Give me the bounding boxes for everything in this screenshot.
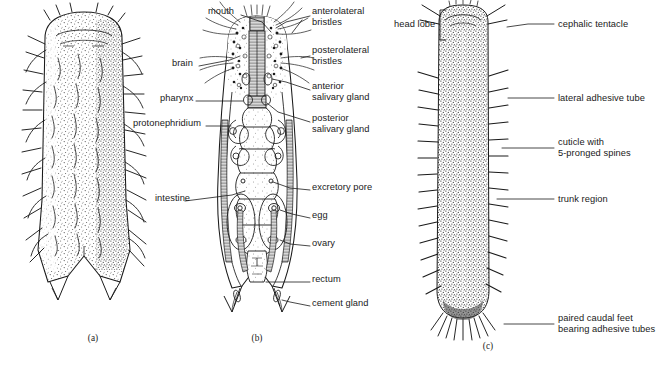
label-mouth: mouth — [208, 6, 234, 17]
leader-anterolateral-bristles-2 — [292, 20, 302, 33]
label-anterior-salivary-gland: anterior salivary gland — [312, 81, 370, 102]
leader-egg — [280, 210, 310, 218]
panel-b-caption-text: (b) — [252, 333, 263, 344]
panel-a-artwork — [22, 3, 146, 300]
label-brain: brain — [172, 58, 193, 69]
panel-a-caption-text: (a) — [88, 333, 98, 344]
label-intestine: intestine — [155, 193, 190, 204]
label-cuticle-with-spines: cuticle with 5-pronged spines — [558, 137, 631, 158]
label-head-lobe: head lobe — [394, 19, 435, 30]
label-protonephridium: protonephridium — [133, 118, 201, 129]
label-egg: egg — [312, 210, 328, 221]
label-paired-caudal-feet: paired caudal feet bearing adhesive tube… — [558, 313, 655, 334]
leader-cephalic-tentacle — [507, 24, 554, 27]
leader-posterior-salivary — [267, 103, 310, 122]
label-excretory-pore: excretory pore — [312, 182, 372, 193]
label-rectum: rectum — [312, 274, 341, 285]
label-pharynx: pharynx — [160, 93, 193, 104]
panel-b-artwork — [200, 2, 314, 312]
label-posterior-salivary-gland: posterior salivary gland — [312, 113, 370, 134]
label-posterolateral-bristles: posterolateral bristles — [312, 45, 369, 66]
leader-brain — [199, 56, 240, 66]
panel-c-artwork — [418, 0, 508, 340]
leader-intestine — [185, 191, 245, 201]
panel-c-caption-text: (c) — [483, 341, 493, 352]
label-trunk-region: trunk region — [558, 194, 608, 205]
leader-lines — [185, 15, 554, 324]
leader-cement-gland — [282, 300, 310, 306]
leader-ovary — [280, 240, 310, 246]
leader-posterolateral-bristles — [301, 56, 310, 58]
leader-mouth — [241, 15, 271, 32]
figure-root: (a) — [0, 0, 668, 369]
label-anterolateral-bristles: anterolateral bristles — [312, 6, 364, 27]
leader-anterolateral-bristles — [276, 16, 310, 28]
label-cephalic-tentacle: cephalic tentacle — [558, 19, 628, 30]
label-ovary: ovary — [312, 238, 335, 249]
head-lobe-bracket — [440, 10, 446, 40]
label-cement-gland: cement gland — [312, 298, 368, 309]
label-lateral-adhesive-tube: lateral adhesive tube — [558, 93, 645, 104]
leader-excretory-pore — [273, 182, 310, 190]
leader-anterior-salivary — [272, 79, 310, 90]
